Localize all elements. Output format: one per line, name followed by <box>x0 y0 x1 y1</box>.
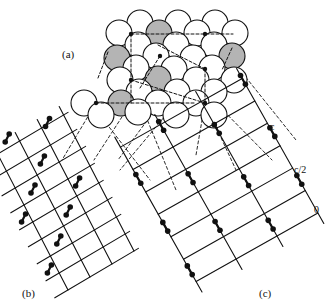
lattice-b-atom <box>67 204 73 210</box>
lattice-b-atom <box>19 219 25 225</box>
lattice-c-atom <box>165 228 171 234</box>
lattice-c-atom <box>265 218 271 224</box>
lattice-b-atom <box>63 212 69 218</box>
lattice-c-atom <box>185 263 191 269</box>
lattice-c-atom <box>270 226 276 232</box>
lattice-b-atom <box>54 241 60 247</box>
atom <box>88 102 114 128</box>
lattice-b-atom <box>49 262 55 268</box>
lattice-c-atom <box>272 134 278 140</box>
bond-node <box>129 32 133 36</box>
lattice-b-atom <box>28 190 34 196</box>
lattice-b <box>0 107 138 298</box>
lattice-c-atom <box>243 81 249 87</box>
lattice-b-atom <box>38 161 44 167</box>
bond-node <box>203 67 207 71</box>
lattice-c-atom <box>246 183 252 189</box>
lattice-b-atom <box>2 139 8 145</box>
bond-node <box>94 101 98 105</box>
lattice-c-atom <box>138 180 144 186</box>
bond-node <box>203 32 207 36</box>
lattice-b-atom <box>47 116 53 122</box>
label-c: (c) <box>259 287 272 300</box>
diagram: (a) (b) (c) c c/2 0 <box>0 0 332 307</box>
lattice-c-atom <box>190 180 196 186</box>
lattice-b-atom <box>6 131 12 137</box>
lattice-c-column <box>237 69 324 224</box>
bond-node <box>129 78 133 82</box>
lattice-c-atom <box>185 171 191 177</box>
lattice-c-atom <box>189 272 195 278</box>
lattice-c-atom <box>212 219 218 225</box>
lattice-c-row <box>158 146 280 215</box>
lattice-c-atom <box>156 119 162 125</box>
lattice-c-row <box>146 123 268 192</box>
lattice-b-atom <box>43 124 49 130</box>
lattice-b-atom <box>77 175 83 181</box>
lattice-c-atom <box>217 228 223 234</box>
axis-label-c-half: c/2 <box>294 164 306 175</box>
lattice-b-atom <box>58 233 64 239</box>
lattice-c-atom <box>216 131 222 137</box>
lattice-b-rung <box>0 129 77 178</box>
lattice-b-atom <box>32 182 38 188</box>
lattice-b-atom <box>73 183 79 189</box>
atom <box>163 102 189 128</box>
lattice-c-atom <box>161 127 167 133</box>
lattice-c-atom <box>160 220 166 226</box>
lattice-b-atom <box>23 211 29 217</box>
lattice-c-atom <box>212 122 218 128</box>
lattice-c-atom <box>238 73 244 79</box>
axis-label-zero: 0 <box>314 204 319 215</box>
lattice-b-atom <box>45 270 51 276</box>
atom-layer-a <box>71 10 248 128</box>
diagram-canvas: (a) (b) (c) c c/2 0 <box>0 0 332 307</box>
label-b: (b) <box>22 287 35 300</box>
axis-label-c: c <box>270 121 275 132</box>
lattice-c-atom <box>299 181 305 187</box>
lattice-c-atom <box>133 172 139 178</box>
lattice-c-atom <box>241 174 247 180</box>
lattice-c-row <box>183 191 305 260</box>
lattice-b-rung <box>55 248 139 297</box>
lattice-c-row <box>171 168 293 237</box>
bond-node <box>158 54 162 58</box>
lattice-b-column <box>0 146 68 291</box>
lattice-b-atom <box>42 153 48 159</box>
lattice-c-column <box>155 115 242 270</box>
label-a: (a) <box>62 48 75 61</box>
